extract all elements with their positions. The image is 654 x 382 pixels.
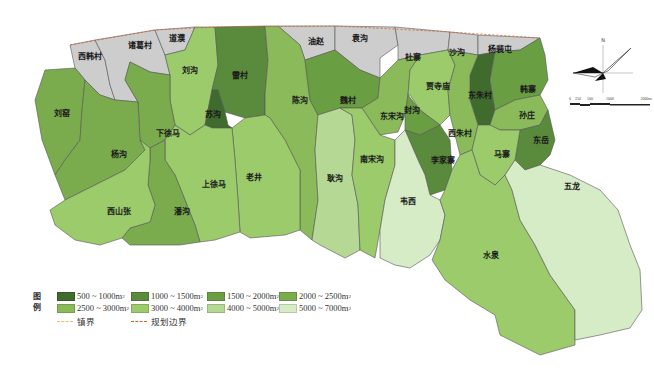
label: 苏沟 (205, 109, 221, 119)
legend-sup: 2 (200, 306, 203, 311)
legend-label: 3000 ~ 4000m (151, 303, 200, 313)
legend-label: 500 ~ 1000m (77, 291, 122, 301)
label: 上徐马 (202, 179, 226, 189)
legend-item: 5000 ~ 7000m2 (279, 303, 351, 313)
scale-tick: 250 (575, 96, 581, 101)
label: 雷村 (232, 70, 248, 80)
label: 孙庄 (519, 110, 535, 120)
label: 袁沟 (351, 33, 368, 43)
legend-label: 2000 ~ 2500m (299, 291, 348, 301)
label: 杨沟 (111, 149, 127, 159)
scale-tick: 1000 (606, 96, 614, 101)
label: 杜寨 (405, 52, 421, 62)
legend-item: 2000 ~ 2500m2 (279, 291, 351, 301)
legend-sup: 2 (348, 306, 351, 311)
legend-label: 2500 ~ 3000m (77, 303, 126, 313)
legend-item: 1000 ~ 1500m2 (131, 291, 203, 301)
label: 杨裴屯 (488, 44, 512, 54)
label: 西朱村 (448, 128, 472, 138)
label: 沙沟 (449, 47, 465, 57)
label: 韩寨 (520, 84, 536, 94)
legend-swatch (131, 304, 149, 313)
label: 李家寨 (430, 155, 455, 165)
label: 陈沟 (292, 95, 308, 105)
legend-sup: 2 (200, 294, 203, 299)
legend-title: 图例 (33, 290, 41, 312)
town-boundary-line-icon (57, 321, 73, 322)
legend-swatch (279, 292, 297, 301)
compass-rose-icon: N (573, 37, 633, 93)
label: 西山张 (107, 206, 132, 216)
legend-sup: 2 (126, 306, 129, 311)
label: 水泉 (482, 250, 500, 260)
label: 封沟 (404, 105, 420, 115)
label: 耿沟 (327, 173, 343, 183)
label: 西韩村 (78, 51, 102, 61)
legend-label: 4000 ~ 5000m (227, 303, 276, 313)
compass-north-label: N (601, 37, 605, 43)
label: 南宋沟 (360, 154, 384, 164)
label: 贾寺庙 (426, 81, 450, 91)
legend-swatch (57, 304, 75, 313)
legend-item: 4000 ~ 5000m2 (207, 303, 279, 313)
label: 魏村 (339, 95, 356, 105)
legend-label: 5000 ~ 7000m (299, 303, 348, 313)
region-耿沟[interactable] (312, 108, 360, 258)
legend-swatch (207, 292, 225, 301)
legend-swatch (207, 304, 225, 313)
scale-bar: 0 250 500 1000 2000m (569, 96, 652, 106)
legend-swatch (279, 304, 297, 313)
legend-swatch (131, 292, 149, 301)
legend-label: 1500 ~ 2000m (227, 291, 276, 301)
legend-sup: 2 (348, 294, 351, 299)
label: 潘沟 (174, 206, 190, 216)
legend-item: 500 ~ 1000m2 (57, 291, 125, 301)
legend-label: 1000 ~ 1500m (151, 291, 200, 301)
planning-boundary-line-icon (131, 321, 147, 322)
scale-tick: 2000m (640, 96, 652, 101)
label: 诸葛村 (128, 40, 152, 50)
label: 下徐马 (156, 128, 180, 138)
legend-item: 3000 ~ 4000m2 (131, 303, 203, 313)
scale-tick: 0 (569, 96, 571, 101)
label: 马寨 (494, 149, 510, 159)
label: 东岳 (533, 135, 549, 145)
legend-line-item: 规划边界 (131, 315, 187, 327)
label: 刘沟 (182, 65, 198, 75)
legend-label: 规划边界 (151, 315, 187, 327)
legend-swatch (57, 292, 75, 301)
village-map: 西韩村 诸葛村 道濮 油赵 袁沟 杜寨 沙沟 杨裴屯 刘沟 雷村 苏沟 刘窑 下… (0, 0, 654, 382)
scale-tick: 500 (587, 96, 593, 101)
label: 东宋沟 (380, 111, 404, 121)
legend-line-item: 镇界 (57, 315, 95, 327)
legend-sup: 2 (122, 294, 125, 299)
label: 油赵 (308, 36, 325, 46)
label: 道濮 (169, 33, 186, 43)
legend-item: 1500 ~ 2000m2 (207, 291, 279, 301)
label: 东朱村 (468, 90, 492, 100)
legend-label: 镇界 (77, 315, 95, 327)
label: 老井 (245, 172, 262, 182)
label: 五龙 (564, 181, 580, 191)
label: 韦西 (400, 196, 416, 206)
label: 刘窑 (54, 108, 70, 118)
legend-item: 2500 ~ 3000m2 (57, 303, 129, 313)
